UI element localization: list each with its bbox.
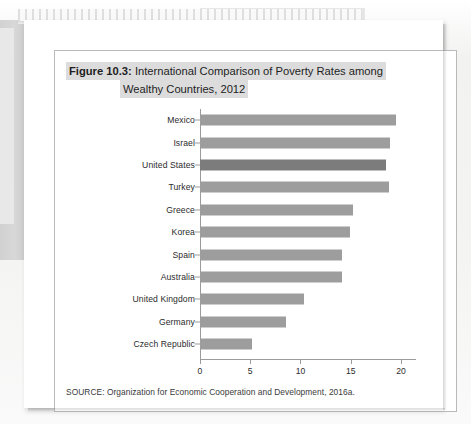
figure-number: Figure 10.3:	[69, 65, 132, 77]
category-label: Australia	[161, 272, 195, 282]
x-axis-tick-label: 15	[346, 366, 356, 376]
bar-row: Greece	[66, 199, 446, 221]
category-label: United States	[142, 160, 195, 170]
bar	[200, 227, 350, 238]
category-label: Czech Republic	[133, 339, 195, 349]
category-label: Spain	[173, 250, 195, 260]
bar	[200, 137, 390, 148]
bar-row: Korea	[66, 221, 446, 243]
figure-title-text-1: International Comparison of Poverty Rate…	[135, 65, 383, 77]
bar	[200, 249, 342, 260]
x-axis-tick-label: 0	[198, 366, 203, 376]
x-axis-tick	[300, 359, 301, 364]
poverty-rate-bar-chart: MexicoIsraelUnited StatesTurkeyGreeceKor…	[66, 107, 446, 372]
adjacent-page-edge-inner	[0, 28, 14, 224]
x-axis-tick-label: 5	[248, 366, 253, 376]
category-label: Turkey	[168, 182, 195, 192]
bar-row: United Kingdom	[66, 288, 446, 310]
category-label: Mexico	[167, 115, 195, 125]
figure-title-line-1: Figure 10.3: International Comparison of…	[66, 62, 386, 80]
bar	[200, 316, 286, 327]
bar	[200, 159, 386, 170]
screenshot-root: Figure 10.3: International Comparison of…	[0, 0, 471, 424]
x-axis-tick	[351, 359, 352, 364]
category-label: Israel	[173, 138, 195, 148]
figure-box: Figure 10.3: International Comparison of…	[54, 50, 457, 412]
category-label: Germany	[159, 317, 195, 327]
x-axis-tick	[250, 359, 251, 364]
bar-row: Australia	[66, 266, 446, 288]
bar	[200, 294, 304, 305]
bar-row: Czech Republic	[66, 333, 446, 355]
bar-row: United States	[66, 154, 446, 176]
plot-area: MexicoIsraelUnited StatesTurkeyGreeceKor…	[66, 107, 446, 372]
bar-row: Spain	[66, 243, 446, 265]
x-axis-tick-label: 20	[396, 366, 406, 376]
x-axis-tick	[401, 359, 402, 364]
figure-title-line-2: Wealthy Countries, 2012	[120, 80, 248, 98]
x-axis-tick-label: 10	[296, 366, 306, 376]
bar	[200, 182, 389, 193]
category-label: United Kingdom	[132, 294, 195, 304]
page-shadow-bottom	[28, 408, 445, 412]
bar-row: Israel	[66, 131, 446, 153]
bar-row: Mexico	[66, 109, 446, 131]
category-label: Greece	[166, 205, 195, 215]
scanned-page: Figure 10.3: International Comparison of…	[24, 20, 443, 408]
category-label: Korea	[172, 227, 195, 237]
bar	[200, 115, 396, 126]
bar-row: Germany	[66, 311, 446, 333]
bar	[200, 204, 353, 215]
figure-title: Figure 10.3: International Comparison of…	[66, 62, 411, 98]
bar	[200, 271, 342, 282]
figure-source: SOURCE: Organization for Economic Cooper…	[66, 387, 355, 397]
x-axis-tick	[200, 359, 201, 364]
page-shadow-right	[443, 24, 447, 410]
bar	[200, 339, 252, 350]
x-axis-line	[200, 359, 416, 360]
bar-row: Turkey	[66, 176, 446, 198]
